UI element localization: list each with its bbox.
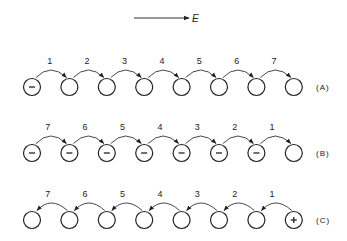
hop-label: 2 [85,56,90,66]
site [285,212,302,229]
hop-label: 1 [270,189,275,199]
site [61,212,78,229]
field-label: E [192,13,199,24]
hop-label: 5 [120,189,125,199]
hop-label: 7 [272,56,277,66]
hop-arrow [186,70,216,78]
hop-arrow [149,203,179,211]
site [211,212,228,229]
hop-arrow [224,203,254,211]
hop-label: 4 [159,56,164,66]
site [61,145,78,162]
hop-arrow [73,70,103,78]
site [24,79,41,96]
hop-label: 7 [45,122,50,132]
site [61,79,78,96]
hop-label: 6 [234,56,239,66]
hop-label: 7 [45,189,50,199]
site [136,145,153,162]
hop-arrow [260,136,290,144]
hop-arrow [37,203,67,211]
hop-arrow [260,70,290,78]
hop-arrow [186,136,216,144]
site [98,212,115,229]
hop-arrow [74,203,104,211]
row-c: 7654321(C) [24,189,331,229]
site [285,79,302,96]
hop-label: 3 [195,122,200,132]
site [248,79,265,96]
site [248,145,265,162]
hop-label: 4 [157,122,162,132]
hop-arrow [111,136,141,144]
hop-label: 1 [47,56,52,66]
hop-arrow [36,70,66,78]
hop-arrow [148,70,178,78]
hop-label: 1 [270,122,275,132]
site [136,212,153,229]
site [98,79,115,96]
hop-arrow [223,70,253,78]
field-arrow: E [134,13,199,24]
hop-label: 2 [232,189,237,199]
row-a: 1234567(A) [24,56,330,96]
hop-label: 6 [83,122,88,132]
site [285,145,302,162]
hop-label: 5 [197,56,202,66]
hop-label: 6 [83,189,88,199]
row-label: (A) [316,83,330,92]
site [211,79,228,96]
hop-label: 3 [195,189,200,199]
hop-arrow [73,136,103,144]
site [248,212,265,229]
hop-label: 5 [120,122,125,132]
site [136,79,153,96]
hop-label: 4 [157,189,162,199]
hop-arrow [223,136,253,144]
site [173,145,190,162]
site [98,145,115,162]
hop-arrow [261,203,291,211]
hop-arrow [187,203,217,211]
hop-arrow [36,136,66,144]
hopping-diagram: E 1234567(A)7654321(B)7654321(C) [0,0,347,241]
site [24,212,41,229]
hop-arrow [148,136,178,144]
site [173,79,190,96]
hop-arrow [111,70,141,78]
hop-label: 3 [122,56,127,66]
row-b: 7654321(B) [24,122,330,162]
site [211,145,228,162]
hop-label: 2 [232,122,237,132]
row-label: (C) [316,216,330,225]
row-label: (B) [316,149,330,158]
site [173,212,190,229]
site [24,145,41,162]
hop-arrow [112,203,142,211]
